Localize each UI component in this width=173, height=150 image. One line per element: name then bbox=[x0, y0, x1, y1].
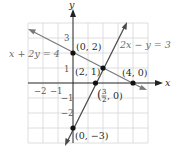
svg-text:2: 2 bbox=[102, 96, 106, 104]
point-4-0 bbox=[130, 80, 135, 85]
tick-y-3: 3 bbox=[64, 33, 69, 43]
svg-text:(: ( bbox=[97, 88, 102, 102]
label-point-0-2: (0, 2) bbox=[76, 41, 102, 52]
tick-y-neg2: −2 bbox=[61, 108, 74, 118]
label-point-3half-0: ( 3 2 , 0) bbox=[97, 88, 123, 104]
label-point-2-1: (2, 1) bbox=[75, 66, 101, 77]
point-3half-0 bbox=[93, 80, 98, 85]
y-axis-arrow-icon bbox=[70, 9, 76, 17]
y-axis-label: y bbox=[68, 0, 75, 10]
tick-x-neg2: −2 bbox=[34, 86, 47, 96]
point-0-2 bbox=[70, 50, 75, 55]
x-axis-label: x bbox=[165, 77, 171, 88]
label-point-4-0: (4, 0) bbox=[122, 67, 148, 78]
label-point-0-neg3: (0, −3) bbox=[75, 130, 109, 141]
coordinate-plane: x y −2 −1 3 1 −1 −2 (0, 2) (2, 1) (4, 0)… bbox=[0, 0, 173, 150]
x-axis-arrow-icon bbox=[155, 80, 163, 86]
axes bbox=[28, 14, 158, 143]
arrowhead-icon bbox=[65, 138, 70, 146]
equation-label-2: 2x − y = 3 bbox=[119, 39, 171, 50]
svg-text:3: 3 bbox=[102, 88, 106, 96]
svg-text:, 0): , 0) bbox=[107, 90, 123, 101]
tick-y-1: 1 bbox=[64, 64, 69, 74]
arrowhead-icon bbox=[139, 85, 147, 90]
tick-y-neg1: −1 bbox=[61, 93, 74, 103]
equation-label-1: x + 2y = 4 bbox=[9, 48, 60, 59]
arrowhead-icon bbox=[28, 29, 36, 35]
point-2-1 bbox=[100, 65, 105, 70]
